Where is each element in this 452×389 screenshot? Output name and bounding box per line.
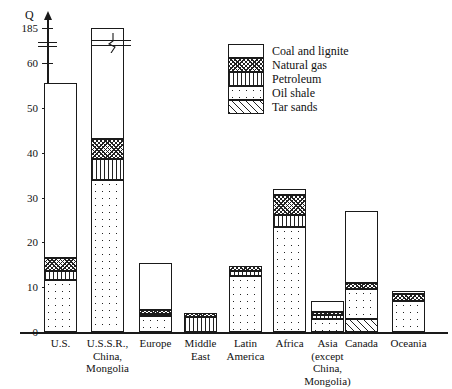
x-axis-label-line: Mongolia) <box>295 375 360 388</box>
bar-segment-petroleum <box>44 271 77 280</box>
bar-segment-natural-gas <box>91 139 124 159</box>
bar-segment-tar-sands <box>345 319 378 332</box>
legend-label-tar-sands: Tar sands <box>272 100 317 114</box>
bar-3 <box>139 0 172 340</box>
legend-swatch-petroleum <box>228 72 264 86</box>
bar-segment-oil-shale <box>139 316 172 332</box>
x-axis-label-line: (except <box>295 350 360 363</box>
bar-segment-natural-gas <box>311 312 344 316</box>
bar-segment-natural-gas <box>345 283 378 290</box>
x-axis-label-9: Oceania <box>376 337 441 350</box>
y-tick-label: 30 <box>4 193 38 204</box>
bar-segment-oil-shale <box>229 276 262 332</box>
bar-segment-coal-and-lignite <box>311 301 344 312</box>
bar-4 <box>184 0 217 340</box>
bar-segment-coal-and-lignite <box>44 83 77 258</box>
bar-segment-natural-gas <box>229 266 262 270</box>
bar-segment-petroleum <box>273 215 306 226</box>
bar-segment-natural-gas <box>184 313 217 317</box>
legend-label-coal-and-lignite: Coal and lignite <box>272 44 349 58</box>
bar-segment-oil-shale <box>273 227 306 332</box>
legend-swatch-tar-sands <box>228 100 264 114</box>
bar-segment-petroleum <box>184 317 217 332</box>
x-axis-label-line: China, <box>295 362 360 375</box>
bar-segment-coal-and-lignite <box>139 263 172 310</box>
bar-segment-natural-gas <box>273 195 306 215</box>
bar-segment-oil-shale <box>345 289 378 318</box>
legend-label-petroleum: Petroleum <box>272 72 321 86</box>
legend-swatch-coal-and-lignite <box>228 44 264 58</box>
bar-segment-coal-and-lignite <box>273 189 306 196</box>
bar-1 <box>44 0 77 340</box>
bar-segment-petroleum <box>229 271 262 276</box>
y-tick-label: 40 <box>4 148 38 159</box>
legend-swatch-natural-gas <box>228 58 264 72</box>
x-axis-label-line: China, <box>75 350 140 363</box>
x-axis-label-line: Oceania <box>376 337 441 350</box>
bar-break-zigzag-icon <box>104 33 120 53</box>
bar-segment-natural-gas <box>44 258 77 271</box>
bar-segment-oil-shale <box>392 301 425 332</box>
bar-segment-petroleum <box>139 314 172 316</box>
legend-label-oil-shale: Oil shale <box>272 86 315 100</box>
y-tick-label: 20 <box>4 237 38 248</box>
bar-segment-oil-shale <box>91 180 124 332</box>
y-tick-label: 50 <box>4 103 38 114</box>
bar-segment-oil-shale <box>44 280 77 332</box>
bar-9 <box>392 0 425 340</box>
bar-segment-petroleum <box>311 315 344 318</box>
y-tick-label: 10 <box>4 282 38 293</box>
y-tick-label: 60 <box>4 58 38 69</box>
bar-segment-coal-and-lignite <box>345 211 378 283</box>
x-axis-label-line: Mongolia <box>75 362 140 375</box>
y-axis-title: Q <box>25 9 34 21</box>
bar-segment-natural-gas <box>139 310 172 314</box>
legend-swatch-oil-shale <box>228 86 264 100</box>
bar-8 <box>345 0 378 340</box>
bar-segment-petroleum <box>91 159 124 179</box>
bar-segment-coal-and-lignite <box>392 291 425 294</box>
x-axis-label-line: America <box>213 350 278 363</box>
legend-label-natural-gas: Natural gas <box>272 58 327 72</box>
stacked-bar-chart: Q 0102030405060185 U.S.U.S.S.R.,China,Mo… <box>0 0 452 389</box>
y-tick-label: 185 <box>4 23 38 34</box>
bar-segment-oil-shale <box>311 319 344 332</box>
bar-segment-natural-gas <box>392 294 425 301</box>
